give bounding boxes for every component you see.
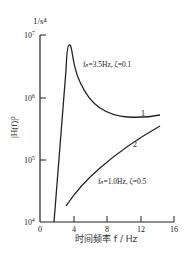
chart-canvas: 1/s⁴ 107 106 105 104 0 4 8 12 <box>0 0 191 255</box>
svg-text:105: 105 <box>24 155 35 166</box>
y-axis-title: |H(f)|² <box>9 116 19 138</box>
svg-text:12: 12 <box>137 225 145 234</box>
y-tick-labels: 107 106 105 104 <box>24 30 35 228</box>
curve-2 <box>66 126 160 206</box>
svg-text:0: 0 <box>38 225 42 234</box>
curve-2-params: fₙ=1.0Hz, ζ=0.5 <box>98 177 147 186</box>
unit-label: 1/s⁴ <box>33 16 47 26</box>
svg-text:107: 107 <box>24 30 35 41</box>
curve-1 <box>54 45 160 222</box>
x-ticks <box>74 216 174 222</box>
curve-2-number: 2 <box>133 140 137 149</box>
curve-1-number: 1 <box>141 109 145 118</box>
svg-text:16: 16 <box>170 225 178 234</box>
curve-1-params: fₙ=3.5Hz, ζ=0.1 <box>83 60 132 69</box>
frequency-response-chart: 1/s⁴ 107 106 105 104 0 4 8 12 <box>0 0 191 255</box>
svg-text:106: 106 <box>24 93 35 104</box>
svg-text:104: 104 <box>24 217 35 228</box>
y-ticks <box>40 35 46 160</box>
x-axis-title: 时间频率 f / Hz <box>75 232 137 245</box>
